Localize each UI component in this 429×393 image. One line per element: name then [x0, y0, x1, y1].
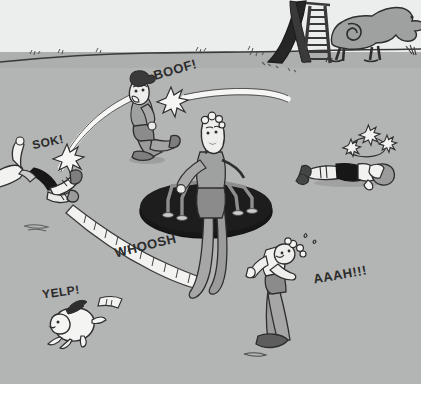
bottom-margin — [0, 384, 429, 393]
right-margin — [421, 0, 429, 393]
cartoon-illustration: BOOF! SOK! WHOOSH YELP! AAAH!!! — [0, 0, 429, 393]
ground-far-band — [0, 52, 421, 68]
scene-artwork — [0, 0, 429, 393]
